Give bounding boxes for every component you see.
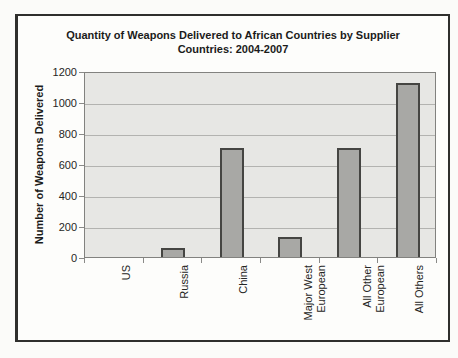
x-axis-label-line: All Others — [413, 265, 426, 343]
gridline — [85, 104, 435, 105]
x-axis-label-all-others: All Others — [413, 265, 426, 343]
y-tick-label: 1000 — [36, 97, 77, 110]
y-tick-label: 800 — [36, 128, 77, 141]
bar-all-other-european — [337, 148, 361, 257]
x-tick-mark — [436, 258, 437, 263]
x-tick-mark — [319, 258, 320, 263]
x-tick-mark — [84, 258, 85, 263]
scanned-document-page: Quantity of Weapons Delivered to African… — [0, 0, 458, 358]
x-axis-label-us: US — [120, 265, 133, 343]
x-axis-label-china: China — [237, 265, 250, 343]
y-tick-label: 200 — [36, 221, 77, 234]
gridline — [85, 135, 435, 136]
x-axis-label-line: China — [237, 265, 250, 343]
x-axis-label-russia: Russia — [178, 265, 191, 343]
chart-figure-box: Quantity of Weapons Delivered to African… — [15, 14, 450, 342]
plot-area — [84, 72, 436, 258]
bar-all-others — [396, 83, 420, 257]
y-tick-label: 1200 — [36, 66, 77, 79]
y-tick-label: 0 — [36, 252, 77, 265]
y-tick-mark — [79, 165, 84, 166]
chart-title: Quantity of Weapons Delivered to African… — [18, 28, 448, 56]
bar-major-west-european — [278, 237, 302, 257]
chart-title-line-2: Countries: 2004-2007 — [18, 42, 448, 56]
bar-russia — [161, 248, 185, 257]
x-tick-mark — [201, 258, 202, 263]
x-axis-label-line: All Other — [361, 265, 374, 343]
x-axis-label-line: Russia — [178, 265, 191, 343]
chart-title-line-1: Quantity of Weapons Delivered to African… — [18, 28, 448, 42]
x-axis-label-line: Major West — [302, 265, 315, 343]
gridline — [85, 166, 435, 167]
gridline — [85, 197, 435, 198]
x-tick-mark — [377, 258, 378, 263]
y-tick-label: 400 — [36, 190, 77, 203]
x-axis-label-line: US — [120, 265, 133, 343]
x-tick-mark — [260, 258, 261, 263]
x-tick-mark — [143, 258, 144, 263]
x-axis-label-line: European — [315, 265, 328, 343]
x-axis-label-major-west-european: Major WestEuropean — [302, 265, 327, 343]
x-axis-label-line: European — [374, 265, 387, 343]
x-axis-label-all-other-european: All OtherEuropean — [361, 265, 386, 343]
gridline — [85, 228, 435, 229]
bar-china — [220, 148, 244, 257]
y-tick-label: 600 — [36, 159, 77, 172]
y-tick-mark — [79, 72, 84, 73]
y-tick-mark — [79, 227, 84, 228]
y-tick-mark — [79, 103, 84, 104]
y-tick-mark — [79, 196, 84, 197]
y-tick-mark — [79, 134, 84, 135]
